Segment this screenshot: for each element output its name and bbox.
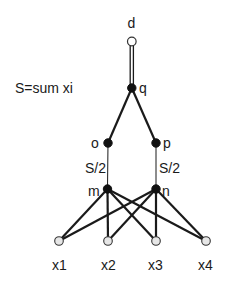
edge-q-o	[108, 88, 132, 143]
node-o	[104, 139, 112, 147]
label-d: d	[128, 15, 136, 31]
label-n: n	[162, 183, 170, 199]
node-x3	[152, 237, 161, 246]
edge-d-q	[130, 45, 133, 86]
annotation-sum: S=sum xi	[15, 80, 73, 96]
edges	[59, 45, 206, 241]
node-x1	[55, 237, 64, 246]
node-q	[128, 84, 136, 92]
node-d	[128, 37, 137, 46]
label-p: p	[163, 135, 171, 151]
label-m: m	[88, 183, 100, 199]
node-p	[152, 139, 160, 147]
label-x4: x4	[198, 257, 213, 273]
label-x3: x3	[148, 257, 163, 273]
edge-label-p-n: S/2	[159, 160, 180, 176]
node-n	[152, 185, 160, 193]
label-o: o	[91, 135, 99, 151]
edge-o-m	[108, 143, 109, 189]
node-m	[103, 185, 111, 193]
edge-q-p	[132, 88, 156, 143]
node-x4	[202, 237, 211, 246]
label-x1: x1	[52, 257, 67, 273]
node-x2	[104, 237, 113, 246]
network-diagram: S=sum xi d q o p S/2 S/2 m n x1 x2 x3 x4	[0, 0, 228, 285]
edge-m-x1	[59, 189, 108, 241]
edge-label-o-m: S/2	[85, 160, 106, 176]
label-q: q	[139, 80, 147, 96]
label-x2: x2	[101, 257, 116, 273]
